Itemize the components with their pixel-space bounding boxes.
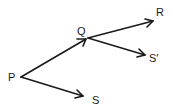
point-label-p: P <box>8 71 15 83</box>
vector-diagram: P Q R S′ S <box>0 0 175 111</box>
vector-p-to-q <box>21 39 86 77</box>
point-label-s-prime: S′ <box>149 52 158 64</box>
vector-q-to-s-prime <box>88 38 145 57</box>
vector-p-to-s <box>21 77 83 98</box>
point-label-q: Q <box>77 25 86 37</box>
point-label-r: R <box>156 6 164 18</box>
point-label-s: S <box>92 94 99 106</box>
vector-q-to-r <box>88 19 153 38</box>
